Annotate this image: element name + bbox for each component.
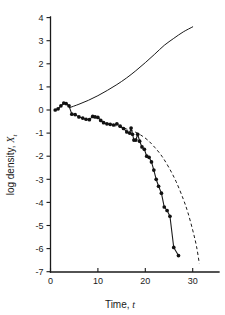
x-axis-title-text: Time, (105, 299, 132, 310)
data-point-marker (154, 177, 158, 181)
data-point-marker (129, 126, 133, 130)
data-point-marker (70, 112, 74, 116)
data-point-marker (150, 160, 154, 164)
data-point-marker (105, 122, 109, 126)
data-point-marker (84, 117, 88, 121)
data-point-marker (134, 138, 138, 142)
x-tick-label: 30 (188, 276, 198, 286)
data-point-marker (165, 209, 169, 213)
data-point-marker (115, 122, 119, 126)
data-point-marker (77, 115, 81, 119)
data-point-marker (118, 124, 122, 128)
data-point-marker (143, 147, 147, 151)
y-tick-label: 1 (38, 82, 43, 92)
data-point-marker (168, 214, 172, 218)
y-tick-label: -4 (35, 198, 43, 208)
chart-figure: -7-6-5-4-3-2-101234 0102030 log density,… (0, 0, 225, 315)
y-tick-label: 0 (38, 105, 43, 115)
data-point-marker (152, 168, 156, 172)
y-tick-label: -3 (35, 175, 43, 185)
series-observed-data-line (55, 103, 178, 255)
y-axis-title-subscript: t (11, 134, 19, 137)
y-tick-label: -7 (35, 267, 43, 277)
data-point-marker (96, 116, 100, 120)
series-upper-model-curve (69, 27, 192, 108)
data-point-marker (131, 132, 135, 136)
data-point-marker (81, 116, 85, 120)
y-axis-tick-labels: -7-6-5-4-3-2-101234 (35, 13, 43, 277)
data-point-marker (112, 123, 116, 127)
y-axis-title-text: log density, (5, 143, 16, 196)
y-tick-label: -6 (35, 244, 43, 254)
data-point-marker (136, 132, 140, 136)
data-point-marker (56, 107, 60, 111)
x-tick-label: 0 (48, 276, 53, 286)
x-axis-title-variable: t (132, 299, 135, 310)
data-series-group (53, 27, 199, 264)
y-tick-label: -2 (35, 151, 43, 161)
data-point-marker (147, 156, 151, 160)
data-point-marker (160, 191, 164, 195)
data-point-marker (99, 119, 103, 123)
data-point-marker (67, 104, 71, 108)
y-axis-title: log density, Xt (5, 134, 19, 196)
data-point-marker (172, 246, 176, 250)
y-tick-label: 4 (38, 13, 43, 23)
axes: -7-6-5-4-3-2-101234 0102030 (35, 13, 219, 286)
data-point-marker (88, 118, 92, 122)
data-point-marker (122, 127, 126, 131)
series-observed-data-markers (53, 101, 180, 257)
line-chart: -7-6-5-4-3-2-101234 0102030 log density,… (0, 0, 225, 315)
x-axis-title: Time, t (105, 299, 135, 310)
axis-labels: log density, Xt Time, t (5, 134, 135, 310)
y-tick-label: 3 (38, 36, 43, 46)
y-tick-label: -5 (35, 221, 43, 231)
data-point-marker (138, 139, 142, 143)
x-axis-tick-labels: 0102030 (48, 276, 198, 286)
data-point-marker (157, 184, 161, 188)
data-point-marker (59, 104, 63, 108)
data-point-marker (102, 121, 106, 125)
data-point-marker (73, 113, 77, 117)
data-point-marker (177, 254, 181, 258)
x-tick-label: 10 (93, 276, 103, 286)
x-tick-label: 20 (140, 276, 150, 286)
series-lower-model-curve (107, 124, 199, 264)
data-point-marker (162, 205, 166, 209)
data-point-marker (64, 102, 68, 106)
data-point-marker (108, 122, 112, 126)
y-tick-label: 2 (38, 59, 43, 69)
y-tick-label: -1 (35, 128, 43, 138)
